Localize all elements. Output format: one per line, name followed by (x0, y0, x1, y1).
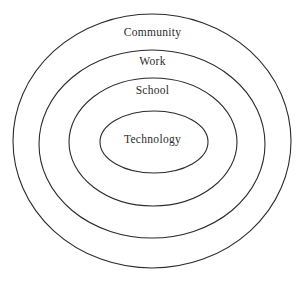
ring-label-school: School (0, 85, 305, 97)
ring-label-technology: Technology (0, 134, 305, 146)
concentric-circles-diagram: Community Work School Technology (0, 0, 305, 282)
ring-label-work: Work (0, 56, 305, 68)
ring-label-community: Community (0, 27, 305, 39)
